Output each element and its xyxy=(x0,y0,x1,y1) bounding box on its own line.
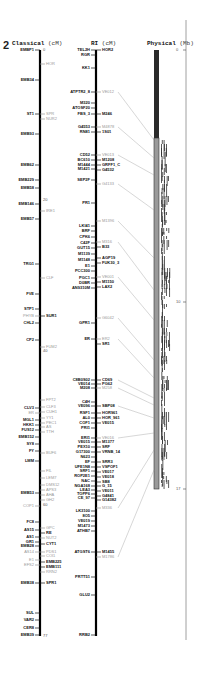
contig-tiling-segment xyxy=(166,388,167,391)
contig-tiling-segment xyxy=(168,176,169,181)
contig-tiling-segment xyxy=(164,188,165,199)
ri-marker-label: HOR2 xyxy=(102,48,113,52)
ri-to-physical-connector xyxy=(118,380,154,398)
contig-tiling-segment xyxy=(166,360,167,364)
contig-tiling-segment xyxy=(161,152,162,155)
contig-tiling-segment xyxy=(166,304,167,307)
classical-marker-label: SUL xyxy=(26,611,34,615)
classical-marker-label: FUM2 xyxy=(46,345,57,349)
contig-tiling-segment xyxy=(164,276,165,279)
classical-marker-label: TTH xyxy=(46,430,54,434)
contig-tiling-segment xyxy=(167,196,168,205)
classical-marker-label: CLF xyxy=(46,276,54,280)
classical-marker-label: LMM xyxy=(25,459,34,463)
physical-mb-scale-label: 10 xyxy=(176,300,180,304)
ri-to-physical-connector xyxy=(118,127,154,158)
contig-tiling-segment xyxy=(166,148,167,157)
contig-tiling-segment xyxy=(161,180,162,183)
ri-to-physical-connector xyxy=(118,406,154,418)
classical-marker-label: SUR1 xyxy=(46,314,57,318)
ri-marker-label: ATGST6 xyxy=(75,550,90,554)
contig-tiling-segment xyxy=(165,380,166,383)
classical-cm-scale-label: 60 xyxy=(43,503,47,507)
classical-marker-label: FIL xyxy=(46,469,52,473)
ri-marker-label: SR1 xyxy=(102,342,110,346)
contig-tiling-segment xyxy=(162,368,163,372)
contig-tiling-segment xyxy=(162,472,163,476)
contig-tiling-segment xyxy=(164,480,165,489)
ri-marker-label: PRI1 xyxy=(81,426,90,430)
contig-tiling-segment xyxy=(164,452,165,456)
classical-marker-label: FPT2 xyxy=(46,398,56,402)
classical-marker-label: EMBP1 xyxy=(20,48,34,52)
ri-marker-label: M336 xyxy=(102,506,112,510)
ri-marker-label: ATOSF20 xyxy=(72,106,90,110)
ri-marker-label: M208 xyxy=(80,386,90,390)
contig-tiling-segment xyxy=(162,244,163,247)
classical-marker-label: EMB57 xyxy=(21,217,34,221)
classical-marker-label: NUR2 xyxy=(46,117,57,121)
contig-tiling-segment xyxy=(162,484,163,487)
contig-tiling-segment xyxy=(166,412,167,424)
classical-marker-label: LEM7 xyxy=(46,476,56,480)
contig-tiling-segment xyxy=(164,168,165,175)
classical-cm-scale-label: 20 xyxy=(43,198,47,202)
contig-tiling-segment xyxy=(167,320,168,327)
classical-marker-label: EMB152 xyxy=(18,435,34,439)
classical-marker-label: FVE xyxy=(26,292,34,296)
contig-tiling-segment xyxy=(164,360,165,370)
contig-tiling-segment xyxy=(165,164,166,172)
contig-tiling-segment xyxy=(161,356,162,364)
physical-mb-scale-label: 17 xyxy=(176,487,180,491)
contig-tiling-segment xyxy=(166,424,167,430)
contig-tiling-segment xyxy=(166,328,167,332)
physical-bar-dark-segment xyxy=(154,50,159,138)
contig-tiling-segment xyxy=(168,240,169,247)
ri-to-physical-connector xyxy=(118,184,154,210)
ri-marker-label: M1786 xyxy=(102,555,114,559)
contig-tiling-segment xyxy=(168,228,169,233)
classical-marker-label: AS14 xyxy=(24,550,34,554)
contig-tiling-segment xyxy=(162,140,163,144)
contig-tiling-segment xyxy=(162,388,163,391)
contig-tiling-segment xyxy=(164,424,165,427)
classical-marker-label: EFS2 xyxy=(24,563,34,567)
contig-tiling-segment xyxy=(166,288,167,296)
ri-marker-label: M246 xyxy=(102,112,112,116)
ri-to-physical-connector xyxy=(118,339,154,378)
classical-marker-label: CER8 xyxy=(23,626,34,630)
contig-tiling-segment xyxy=(164,432,165,441)
contig-tiling-segment xyxy=(167,440,168,445)
classical-marker-label: ST1 xyxy=(27,112,34,116)
physical-mb-scale-label: 0 xyxy=(176,48,178,52)
contig-tiling-segment xyxy=(166,184,167,197)
ri-marker-label: FUK30_3 xyxy=(102,261,119,265)
ri-to-physical-connector xyxy=(118,155,154,175)
contig-tiling-segment xyxy=(163,476,164,479)
contig-tiling-segment xyxy=(166,332,167,336)
ri-marker-label: B33 xyxy=(102,245,109,249)
contig-tiling-segment xyxy=(161,324,162,328)
contig-tiling-segment xyxy=(162,280,163,284)
contig-tiling-segment xyxy=(164,232,165,235)
ri-marker-label: GPR1 xyxy=(79,321,90,325)
ri-to-physical-connector xyxy=(118,242,154,290)
ri-to-physical-connector xyxy=(118,470,154,557)
ri-to-physical-connector xyxy=(118,388,154,405)
ri-marker-label: G6042 xyxy=(102,316,114,320)
contig-tiling-segment xyxy=(166,344,167,348)
ri-marker-label: CPK6 xyxy=(79,235,90,239)
contig-tiling-segment xyxy=(161,200,162,207)
classical-marker-label: COI1 xyxy=(46,554,55,558)
ri-marker-label: G4133 xyxy=(102,182,114,186)
classical-marker-label: NUT2 xyxy=(46,536,56,540)
contig-tiling-segment xyxy=(166,236,167,239)
ri-marker-label: ATHB7 xyxy=(77,529,90,533)
contig-tiling-segment xyxy=(161,348,162,351)
contig-tiling-segment xyxy=(162,304,163,308)
ri-marker-label: VE015 xyxy=(102,421,114,425)
contig-tiling-segment xyxy=(166,212,167,215)
classical-marker-label: SPR1 xyxy=(46,581,56,585)
classical-cm-scale-label: 0 xyxy=(43,48,45,52)
classical-marker-label: FC8 xyxy=(26,520,34,524)
